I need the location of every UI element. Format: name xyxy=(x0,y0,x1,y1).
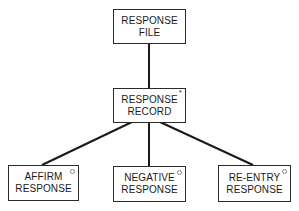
node-response-record: * RESPONSE RECORD xyxy=(113,88,186,123)
node-negative-response: NEGATIVE RESPONSE xyxy=(113,166,186,202)
selection-circle-icon xyxy=(282,169,287,174)
edge-record-reentry xyxy=(160,122,253,165)
node-affirm-response: AFFIRM RESPONSE xyxy=(8,165,79,201)
node-label-line2: RESPONSE xyxy=(121,184,177,196)
selection-circle-icon xyxy=(177,170,182,175)
node-label-line1: RE-ENTRY xyxy=(229,172,281,184)
edge-record-affirm xyxy=(42,122,132,165)
node-label-line1: AFFIRM xyxy=(25,171,63,183)
node-label-line1: RESPONSE xyxy=(121,15,177,27)
node-label-line2: RESPONSE xyxy=(15,183,71,195)
iteration-asterisk-icon: * xyxy=(179,89,182,97)
node-label-line1: RESPONSE xyxy=(121,94,177,106)
node-reentry-response: RE-ENTRY RESPONSE xyxy=(218,165,291,202)
selection-circle-icon xyxy=(70,169,75,174)
node-label-line2: FILE xyxy=(139,27,161,39)
node-label-line2: RECORD xyxy=(128,106,172,118)
node-response-file: RESPONSE FILE xyxy=(113,9,186,44)
node-label-line2: RESPONSE xyxy=(226,184,282,196)
node-label-line1: NEGATIVE xyxy=(124,172,175,184)
